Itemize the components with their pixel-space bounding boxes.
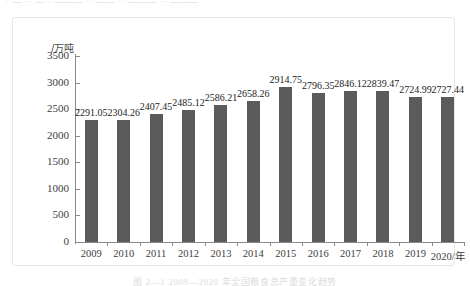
bar xyxy=(376,91,389,242)
bar-value-label: 2658.26 xyxy=(231,88,275,99)
x-tick xyxy=(237,242,238,246)
figure-frame: /万吨 0500100015002000250030003500 2291.05… xyxy=(12,17,455,266)
y-tick xyxy=(75,83,80,84)
x-tick xyxy=(302,242,303,246)
bar xyxy=(344,91,357,242)
y-tick xyxy=(75,136,80,137)
x-tick xyxy=(464,242,465,246)
clipped-text-top: · — ·· —·· ——— ·· —— ·· ——— ·· ——— xyxy=(0,0,470,5)
figure-caption-clipped: 图 2—1 2009—2020 年全国粮食总产量变化趋势 xyxy=(0,275,470,286)
y-tick xyxy=(75,189,80,190)
y-tick xyxy=(75,56,80,57)
bar xyxy=(85,120,98,242)
bar xyxy=(182,110,195,242)
x-tick xyxy=(205,242,206,246)
x-tick xyxy=(334,242,335,246)
y-tick xyxy=(75,242,80,243)
y-tick-label: 0 xyxy=(29,235,69,247)
x-tick xyxy=(140,242,141,246)
bar xyxy=(441,97,454,242)
x-tick xyxy=(270,242,271,246)
x-tick xyxy=(107,242,108,246)
y-tick xyxy=(75,215,80,216)
y-tick-label: 2500 xyxy=(29,102,69,114)
bar xyxy=(409,97,422,242)
bar xyxy=(150,114,163,242)
bar-value-label: 2727.44 xyxy=(426,84,470,95)
x-tick xyxy=(172,242,173,246)
bar xyxy=(247,101,260,242)
y-tick-label: 500 xyxy=(29,208,69,220)
y-tick-label: 1000 xyxy=(29,182,69,194)
bar xyxy=(214,105,227,242)
y-tick-label: 1500 xyxy=(29,155,69,167)
bar xyxy=(312,93,325,242)
x-tick xyxy=(367,242,368,246)
y-tick-label: 3500 xyxy=(29,49,69,61)
y-tick xyxy=(75,162,80,163)
y-tick-label: 2000 xyxy=(29,129,69,141)
bar xyxy=(117,120,130,242)
x-tick-label: 2020/年 xyxy=(425,248,470,263)
x-tick xyxy=(432,242,433,246)
y-tick-label: 3000 xyxy=(29,76,69,88)
x-tick xyxy=(399,242,400,246)
bar xyxy=(279,87,292,242)
